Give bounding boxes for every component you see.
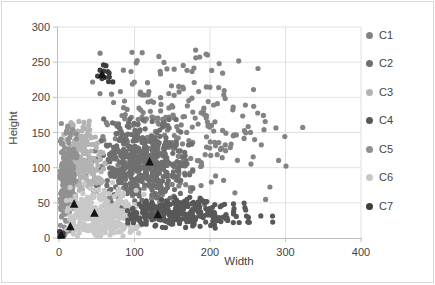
data-point — [101, 62, 106, 67]
data-point — [181, 63, 186, 68]
legend-item-c7: C7 — [366, 198, 393, 214]
data-point — [184, 68, 189, 73]
x-tick-label: 300 — [276, 246, 294, 258]
data-point — [120, 233, 125, 238]
data-point — [127, 116, 132, 121]
data-point — [258, 213, 263, 218]
data-point — [181, 86, 186, 91]
data-point — [237, 220, 242, 225]
legend-item-c2: C2 — [366, 56, 393, 72]
data-point — [184, 130, 189, 135]
data-point — [86, 153, 91, 158]
data-point — [159, 197, 164, 202]
data-point — [134, 211, 139, 216]
data-point — [98, 180, 103, 185]
data-point — [203, 52, 208, 57]
data-point — [137, 201, 142, 206]
data-point — [100, 150, 105, 155]
data-point — [152, 152, 157, 157]
data-point — [232, 190, 237, 195]
data-point — [191, 66, 196, 71]
data-point — [168, 217, 173, 222]
data-point — [122, 116, 127, 121]
data-point — [128, 185, 133, 190]
data-point — [122, 141, 127, 146]
data-point — [98, 157, 103, 162]
data-point — [172, 93, 177, 98]
data-point — [190, 186, 195, 191]
data-point — [157, 134, 162, 139]
data-point — [138, 127, 143, 132]
data-point — [102, 188, 107, 193]
data-point — [158, 108, 163, 113]
data-point — [78, 174, 83, 179]
data-point — [150, 119, 155, 124]
data-point — [270, 220, 275, 225]
data-point — [101, 116, 106, 121]
data-point — [142, 182, 147, 187]
data-point — [190, 110, 195, 115]
data-point — [105, 178, 110, 183]
data-point — [158, 69, 163, 74]
data-point — [62, 171, 67, 176]
data-point — [230, 107, 235, 112]
data-point — [122, 98, 127, 103]
data-point — [221, 178, 226, 183]
data-point — [115, 131, 120, 136]
data-point — [59, 137, 64, 142]
data-point — [147, 183, 152, 188]
x-tick-label: 400 — [352, 246, 370, 258]
data-point — [251, 87, 256, 92]
data-point — [97, 91, 102, 96]
data-point — [207, 85, 212, 90]
data-point — [180, 114, 185, 119]
data-point — [169, 182, 174, 187]
y-tick-label: 0 — [44, 232, 50, 244]
data-point — [152, 224, 157, 229]
data-point — [129, 132, 134, 137]
data-point — [70, 127, 75, 132]
legend-item-c4: C4 — [366, 113, 393, 129]
data-point — [207, 125, 212, 130]
data-point — [259, 142, 264, 147]
data-point — [77, 231, 82, 236]
data-point — [105, 122, 110, 127]
data-point — [140, 165, 145, 170]
data-point — [142, 192, 147, 197]
data-point — [65, 192, 70, 197]
data-point — [161, 217, 166, 222]
data-point — [105, 69, 110, 74]
legend-label: C2 — [379, 58, 393, 69]
data-point — [172, 67, 177, 72]
data-point — [166, 105, 171, 110]
data-point — [172, 133, 177, 138]
data-point — [110, 79, 115, 84]
data-point — [111, 100, 116, 105]
data-point — [242, 136, 247, 141]
data-point — [183, 225, 188, 230]
data-point — [154, 168, 159, 173]
data-point — [80, 222, 85, 227]
data-point — [110, 120, 115, 125]
data-point — [109, 166, 114, 171]
data-point — [137, 216, 142, 221]
data-point — [169, 83, 174, 88]
data-point — [110, 206, 115, 211]
data-point — [84, 141, 89, 146]
data-point — [183, 153, 188, 158]
data-point — [98, 216, 103, 221]
data-point — [74, 131, 79, 136]
data-point — [160, 225, 165, 230]
data-point — [263, 119, 268, 124]
data-point — [218, 219, 223, 224]
data-point — [192, 219, 197, 224]
data-point — [116, 148, 121, 153]
data-point — [155, 147, 160, 152]
legend-marker-c1 — [366, 32, 373, 39]
data-point — [180, 141, 185, 146]
data-point — [161, 60, 166, 65]
data-point — [166, 91, 171, 96]
data-point — [71, 164, 76, 169]
data-point — [193, 204, 198, 209]
data-point — [114, 170, 119, 175]
